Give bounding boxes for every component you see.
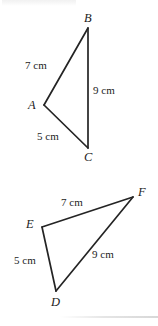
vertex-label-b: B [84,12,92,25]
side-label-bc: 9 cm [93,85,115,96]
segment-ab [44,28,88,105]
side-label-ab: 7 cm [25,60,47,71]
vertex-label-d: D [51,296,60,309]
segment-de [42,227,56,291]
vertex-label-c: C [84,151,92,164]
segment-df [56,197,133,291]
triangles-drawing [0,0,158,326]
side-label-de: 5 cm [14,255,36,266]
side-label-ac: 5 cm [37,131,59,142]
segment-ef [42,197,133,227]
vertex-label-f: F [138,186,146,199]
vertex-label-a: A [28,99,36,112]
side-label-ef: 7 cm [61,197,83,208]
side-label-df: 9 cm [92,249,114,260]
vertex-label-e: E [26,218,34,231]
scan-artifact-bottom-rule [60,316,158,318]
triangle-def-outline [42,197,133,291]
geometry-figure: B A C 7 cm 9 cm 5 cm F E D 7 cm 9 cm 5 c… [0,0,158,326]
